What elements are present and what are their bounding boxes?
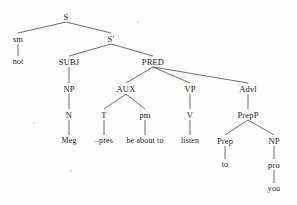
tree-edge (153, 67, 190, 83)
node-np2: NP (268, 137, 279, 146)
node-pred: PRED (142, 58, 164, 67)
node-prepp: PrepP (237, 111, 258, 120)
tree-edge (126, 67, 153, 83)
tree-edge (66, 22, 111, 33)
tree-edge (111, 44, 153, 56)
terminal-node-pres: –pres (95, 137, 113, 145)
scan-artifact-speck (70, 170, 72, 172)
node-pro: pro (268, 161, 280, 170)
node-advl: Advl (239, 85, 257, 94)
tree-edge (153, 67, 248, 83)
tree-edge (104, 94, 126, 109)
tree-edges (0, 0, 297, 205)
scan-artifact-speck (137, 21, 139, 23)
node-vp: VP (184, 85, 195, 94)
node-aux: AUX (117, 85, 136, 94)
terminal-node-not: not (13, 58, 24, 66)
node-np1: NP (63, 85, 74, 94)
node-pm: pm (139, 111, 150, 120)
node-prep: Prep (217, 137, 233, 146)
tree-edge (225, 120, 248, 135)
node-t: T (101, 111, 106, 120)
node-sprime: S′ (108, 35, 115, 44)
terminal-node-listen: listen (181, 137, 199, 145)
node-v: V (187, 111, 193, 120)
node-sm: sm (13, 35, 23, 44)
syntax-tree-diagram: SsmnotS′SUBJNPNMegPREDAUXT–prespmbe abou… (0, 0, 297, 205)
terminal-node-beaboutto: be about to (126, 137, 163, 145)
tree-edge (69, 44, 111, 56)
tree-edge (18, 22, 66, 33)
scan-artifact-speck (33, 122, 35, 124)
terminal-node-you: you (268, 185, 280, 193)
tree-edge (248, 120, 274, 135)
node-n: N (66, 111, 72, 120)
terminal-node-meg: Meg (61, 137, 76, 145)
node-subj: SUBJ (59, 58, 79, 67)
node-s: S (64, 13, 69, 22)
tree-edge (126, 94, 145, 109)
terminal-node-to: to (222, 161, 229, 169)
